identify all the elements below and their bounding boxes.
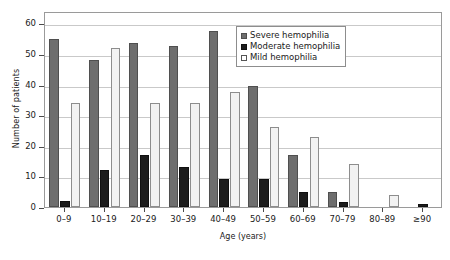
x-axis-tick-mark <box>183 208 184 212</box>
x-axis-tick-label: ≥90 <box>396 214 448 224</box>
bar-group <box>89 13 120 207</box>
bar-group <box>129 13 160 207</box>
x-axis-ticks: 0–910–1920–2930–3940–4950–5960–6970–7980… <box>44 208 442 232</box>
chart-legend: Severe hemophiliaModerate hemophiliaMild… <box>236 26 346 67</box>
bar-group <box>209 13 240 207</box>
y-axis-tick-mark <box>39 24 44 25</box>
legend-swatch-icon <box>241 55 247 61</box>
bar <box>169 46 179 207</box>
bar <box>259 179 269 207</box>
bar-chart-figure: Number of patients 0102030405060 0–910–1… <box>0 0 450 260</box>
y-axis-tick-mark <box>39 177 44 178</box>
bar <box>299 192 309 207</box>
y-axis-tick-label: 10 <box>8 172 41 181</box>
bar <box>150 103 160 207</box>
y-axis-title: Number of patients <box>12 49 21 169</box>
bar <box>100 170 110 207</box>
y-axis-tick-label: 30 <box>8 111 41 120</box>
bar <box>209 31 219 207</box>
y-axis-tick-label: 0 <box>8 203 41 212</box>
bar <box>111 48 121 207</box>
bar <box>49 39 59 207</box>
y-axis-tick-label: 40 <box>8 81 41 90</box>
y-axis-tick-mark <box>39 147 44 148</box>
bar <box>89 60 99 207</box>
y-axis-tick-mark <box>39 86 44 87</box>
x-axis-tick-mark <box>64 208 65 212</box>
bar-group <box>169 13 200 207</box>
legend-label: Severe hemophilia <box>250 31 329 40</box>
bar <box>179 167 189 207</box>
bar <box>190 103 200 207</box>
x-axis-tick-mark <box>343 208 344 212</box>
legend-label: Mild hemophilia <box>250 53 317 62</box>
legend-swatch-icon <box>241 33 247 39</box>
x-axis-tick-mark <box>382 208 383 212</box>
legend-item: Moderate hemophilia <box>241 41 340 52</box>
legend-label: Moderate hemophilia <box>250 42 340 51</box>
bar <box>389 195 399 207</box>
x-axis-tick-mark <box>303 208 304 212</box>
y-axis-tick-mark <box>39 55 44 56</box>
legend-swatch-icon <box>241 44 247 50</box>
bar <box>349 164 359 207</box>
x-axis-tick-mark <box>263 208 264 212</box>
bar <box>270 127 280 207</box>
bar <box>219 179 229 207</box>
x-axis-tick-mark <box>422 208 423 212</box>
bar <box>248 86 258 207</box>
bar <box>60 201 70 207</box>
bar <box>310 137 320 207</box>
bar-group <box>49 13 80 207</box>
bar <box>288 155 298 207</box>
bar <box>140 155 150 207</box>
legend-item: Mild hemophilia <box>241 52 340 63</box>
bar <box>339 202 349 207</box>
y-axis-tick-label: 50 <box>8 50 41 59</box>
bar-group <box>408 13 439 207</box>
bar-group <box>368 13 399 207</box>
x-axis-tick-mark <box>144 208 145 212</box>
x-axis-tick-mark <box>223 208 224 212</box>
bar <box>71 103 81 207</box>
y-axis-tick-label: 60 <box>8 19 41 28</box>
y-axis-tick-mark <box>39 116 44 117</box>
bar <box>129 43 139 207</box>
x-axis-tick-mark <box>104 208 105 212</box>
bar <box>230 92 240 207</box>
x-axis-title: Age (years) <box>44 232 442 241</box>
y-axis-tick-label: 20 <box>8 142 41 151</box>
legend-item: Severe hemophilia <box>241 30 340 41</box>
bar <box>328 192 338 207</box>
bar <box>418 204 428 207</box>
